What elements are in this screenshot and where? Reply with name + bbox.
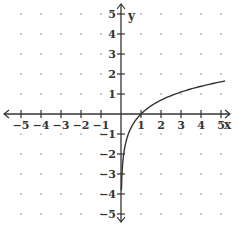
- grid-dot: [200, 193, 202, 195]
- grid-dot: [140, 133, 142, 135]
- grid-dot: [220, 13, 222, 15]
- grid-dot: [20, 13, 22, 15]
- grid-dot: [180, 153, 182, 155]
- grid-dot: [60, 153, 62, 155]
- x-tick-label: 4: [197, 119, 205, 132]
- y-tick-label: 2: [108, 68, 116, 81]
- y-tick-label: −3: [99, 168, 116, 181]
- grid-dot: [40, 193, 42, 195]
- x-tick-label: −2: [73, 119, 90, 132]
- grid-dot: [140, 213, 142, 215]
- grid-dot: [160, 93, 162, 95]
- grid-dot: [80, 13, 82, 15]
- grid-dot: [60, 213, 62, 215]
- x-tick-label: 3: [177, 119, 185, 132]
- grid-dot: [20, 133, 22, 135]
- grid-dot: [80, 73, 82, 75]
- grid-dot: [140, 193, 142, 195]
- grid-dot: [100, 33, 102, 35]
- function-curve: [121, 81, 225, 190]
- grid-dot: [180, 53, 182, 55]
- grid-dot: [20, 153, 22, 155]
- y-tick-label: −1: [99, 128, 116, 141]
- grid-dot: [180, 133, 182, 135]
- grid-dot: [220, 213, 222, 215]
- grid-dot: [60, 53, 62, 55]
- grid-dot: [180, 13, 182, 15]
- grid-dot: [20, 213, 22, 215]
- grid-dot: [160, 133, 162, 135]
- grid-dot: [60, 33, 62, 35]
- grid-dot: [140, 53, 142, 55]
- grid-dot: [220, 193, 222, 195]
- grid-dot: [140, 13, 142, 15]
- grid-dot: [180, 33, 182, 35]
- grid-dot: [140, 173, 142, 175]
- grid-dot: [160, 53, 162, 55]
- grid-dot: [80, 193, 82, 195]
- grid-dot: [180, 173, 182, 175]
- grid-dot: [160, 33, 162, 35]
- grid-dot: [220, 93, 222, 95]
- grid-dot: [200, 33, 202, 35]
- coordinate-plane: −5−4−3−2−112345−5−4−3−2−112345 x y: [0, 0, 237, 248]
- grid-dot: [200, 93, 202, 95]
- grid-dot: [60, 93, 62, 95]
- grid-dot: [200, 53, 202, 55]
- grid-dot: [60, 193, 62, 195]
- grid-dot: [160, 153, 162, 155]
- grid-dot: [20, 93, 22, 95]
- grid-dot: [40, 213, 42, 215]
- grid-dot: [220, 53, 222, 55]
- grid-dot: [40, 33, 42, 35]
- grid-dot: [160, 73, 162, 75]
- x-tick-label: 2: [157, 119, 165, 132]
- grid-dot: [100, 53, 102, 55]
- grid-dot: [180, 193, 182, 195]
- grid-dot: [200, 173, 202, 175]
- grid-dot: [20, 173, 22, 175]
- grid-dot: [80, 213, 82, 215]
- y-tick-label: 3: [108, 48, 116, 61]
- grid-dot: [140, 73, 142, 75]
- x-tick-label: −4: [33, 119, 50, 132]
- grid-dot: [40, 13, 42, 15]
- grid-dot: [80, 93, 82, 95]
- grid-dot: [40, 153, 42, 155]
- grid-dot: [60, 13, 62, 15]
- grid-dot: [200, 13, 202, 15]
- y-tick-label: 5: [108, 8, 116, 21]
- grid-dot: [200, 73, 202, 75]
- y-tick-label: 4: [108, 28, 116, 41]
- grid-dot: [20, 33, 22, 35]
- y-tick-label: −5: [99, 208, 116, 221]
- x-tick-label: −3: [53, 119, 70, 132]
- y-axis-label: y: [127, 9, 136, 23]
- grid-dot: [220, 153, 222, 155]
- grid-dot: [40, 53, 42, 55]
- x-tick-label: 1: [137, 119, 145, 132]
- grid-dot: [140, 33, 142, 35]
- grid-dot: [160, 13, 162, 15]
- grid-dot: [140, 153, 142, 155]
- grid-dot: [40, 133, 42, 135]
- grid-dot: [40, 73, 42, 75]
- y-tick-label: 1: [108, 88, 116, 101]
- grid-dot: [180, 73, 182, 75]
- grid-dot: [140, 93, 142, 95]
- grid-dot: [220, 73, 222, 75]
- x-axis-label: x: [224, 118, 232, 132]
- grid-dot: [20, 73, 22, 75]
- grid-dot: [80, 133, 82, 135]
- grid-dot: [60, 133, 62, 135]
- grid-dot: [160, 173, 162, 175]
- grid-dot: [200, 213, 202, 215]
- grid-dot: [220, 33, 222, 35]
- grid-dot: [40, 173, 42, 175]
- grid-dot: [220, 173, 222, 175]
- y-tick-label: −4: [99, 188, 116, 201]
- grid-dot: [20, 53, 22, 55]
- axes: [4, 4, 230, 222]
- grid-dot: [80, 153, 82, 155]
- y-tick-label: −2: [99, 148, 116, 161]
